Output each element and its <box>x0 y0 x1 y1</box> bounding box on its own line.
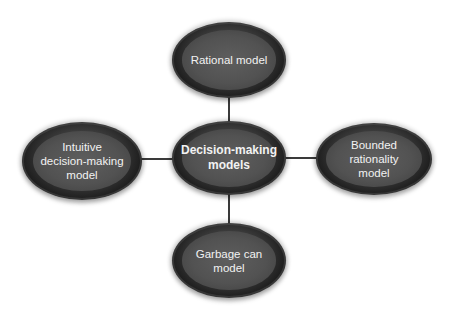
node-bounded-rationality-model: Bounded rationality model <box>316 123 432 195</box>
center-node-label: Decision-making models <box>181 143 277 173</box>
node-intuitive-decision-making-model: Intuitive decision-making model <box>22 122 142 200</box>
node-label: Garbage can model <box>196 247 263 275</box>
connector-center-top <box>228 97 230 124</box>
node-rational-model: Rational model <box>172 22 286 98</box>
connector-center-left <box>140 158 174 160</box>
node-decision-making-models: Decision-making models <box>172 121 286 195</box>
node-label: Bounded rationality model <box>349 138 398 180</box>
node-garbage-can-model: Garbage can model <box>172 223 286 298</box>
node-label: Intuitive decision-making model <box>40 140 123 182</box>
connector-center-right <box>284 157 318 159</box>
node-label: Rational model <box>191 53 268 67</box>
connector-center-bottom <box>228 193 230 225</box>
